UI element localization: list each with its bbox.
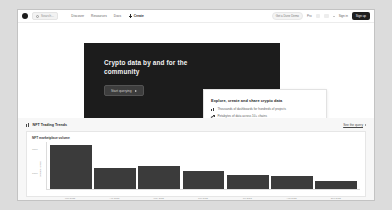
nav-left-group: Search... Discover Resources Docs Create (22, 12, 144, 20)
bar[interactable] (94, 168, 136, 188)
chevron-down-icon[interactable] (333, 16, 335, 17)
sign-in-button[interactable]: Sign in (339, 14, 348, 18)
bar-chart-icon (211, 107, 215, 111)
nav-link-resources[interactable]: Resources (91, 14, 107, 18)
chart-title: NFT marketplace volume (32, 136, 360, 140)
y-tick-label: 1000 (32, 172, 38, 175)
hero-section: Crypto data by and for the community Sta… (18, 23, 374, 118)
start-querying-label: Start querying (111, 89, 132, 93)
chart-section: NFT Trading Trends See the query NFT mar… (18, 118, 374, 201)
chart-card: NFT marketplace volume 3000 1000 Volume … (26, 131, 366, 197)
list-item: Thousands of dashboards for hundreds of … (211, 107, 319, 111)
search-placeholder: Search... (41, 14, 54, 18)
hero-title: Crypto data by and for the community (104, 58, 224, 76)
bar-column (138, 142, 180, 189)
bar[interactable] (315, 181, 357, 188)
top-navigation-bar: Search... Discover Resources Docs Create… (18, 10, 374, 23)
nav-right-group: Get a Dune Demo Pro Sign in Sign up (272, 12, 370, 20)
bar-column (227, 142, 269, 189)
chart-heading: NFT Trading Trends (33, 123, 68, 127)
bar[interactable] (227, 175, 269, 188)
sign-up-button[interactable]: Sign up (352, 12, 370, 19)
browser-window: Search... Discover Resources Docs Create… (17, 9, 375, 201)
nav-link-discover[interactable]: Discover (71, 14, 84, 18)
feature-item-text: Thousands of dashboards for hundreds of … (218, 107, 286, 111)
create-label: Create (134, 14, 144, 18)
bar[interactable] (183, 171, 225, 188)
x-tick-label: Aug 2022 (271, 197, 313, 200)
x-axis-labels: Mar 2022Apr 2022May 2022Jun 2022Jul 2022… (46, 196, 360, 201)
x-tick-label: May 2022 (138, 197, 180, 200)
bar-column (50, 142, 92, 189)
nav-item-pro[interactable]: Pro (307, 14, 312, 18)
bar[interactable] (50, 145, 92, 188)
demo-pill-button[interactable]: Get a Dune Demo (272, 12, 303, 20)
nav-item-docs-icon[interactable] (324, 14, 329, 19)
feature-card: Explore, create and share crypto data Th… (203, 89, 327, 118)
x-tick-label: Sep 2022 (315, 197, 357, 200)
arrow-right-icon (135, 90, 137, 92)
bar-column (315, 142, 357, 189)
see-query-link[interactable]: See the query (343, 123, 366, 127)
plot: 3000 1000 Volume (USD) (32, 142, 360, 196)
search-input[interactable]: Search... (32, 12, 58, 20)
nav-item-api-icon[interactable] (316, 14, 321, 19)
feature-card-title: Explore, create and share crypto data (211, 98, 319, 103)
x-tick-label: Mar 2022 (49, 197, 91, 200)
create-button[interactable]: Create (128, 14, 143, 18)
search-icon (36, 15, 39, 18)
plus-icon (128, 14, 132, 18)
nav-link-docs[interactable]: Docs (114, 14, 121, 18)
bar[interactable] (271, 176, 313, 188)
y-axis-title: Volume (USD) (39, 161, 42, 177)
chart-header-left: NFT Trading Trends (26, 123, 67, 127)
bar-column (183, 142, 225, 189)
plot-area (46, 142, 360, 190)
y-tick-label: 3000 (32, 148, 38, 151)
see-query-label: See the query (343, 123, 363, 127)
bar-column (94, 142, 136, 189)
x-tick-label: Apr 2022 (93, 197, 135, 200)
chart-header: NFT Trading Trends See the query (26, 123, 366, 127)
x-tick-label: Jun 2022 (182, 197, 224, 200)
x-tick-label: Jul 2022 (226, 197, 268, 200)
arrow-right-icon (365, 124, 366, 126)
bar-chart-icon (26, 123, 30, 127)
bar-column (271, 142, 313, 189)
nav-links-group: Discover Resources Docs Create (71, 14, 143, 18)
start-querying-button[interactable]: Start querying (104, 85, 144, 96)
feature-list: Thousands of dashboards for hundreds of … (211, 107, 319, 118)
screenshot-root: Search... Discover Resources Docs Create… (0, 0, 392, 210)
dune-logo-icon[interactable] (22, 13, 28, 19)
y-axis: 3000 1000 Volume (USD) (32, 142, 46, 196)
bar[interactable] (138, 166, 180, 188)
